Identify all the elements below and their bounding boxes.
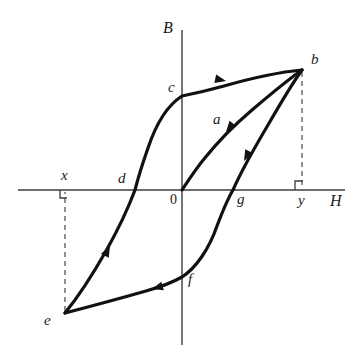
curve-ascending-branch-efgb	[65, 70, 302, 313]
right-angle-mark-x	[60, 190, 67, 198]
hysteresis-diagram-svg	[0, 0, 359, 363]
axis-label-h: H	[330, 193, 342, 209]
hysteresis-curves-group	[65, 70, 302, 313]
point-label-a: a	[213, 112, 221, 127]
axis-label-b: B	[163, 20, 173, 36]
point-label-b: b	[311, 52, 319, 67]
point-label-d: d	[118, 171, 126, 186]
point-label-x: x	[61, 168, 68, 183]
point-label-f: f	[188, 272, 192, 287]
point-label-g: g	[237, 192, 245, 207]
point-label-c: c	[168, 80, 175, 95]
point-label-y: y	[298, 193, 305, 208]
hysteresis-figure: B H 0 a b c d e f g x y	[0, 0, 359, 363]
origin-label: 0	[170, 193, 177, 207]
arrow-b-to-c-icon	[214, 74, 227, 85]
point-label-e: e	[44, 313, 51, 328]
